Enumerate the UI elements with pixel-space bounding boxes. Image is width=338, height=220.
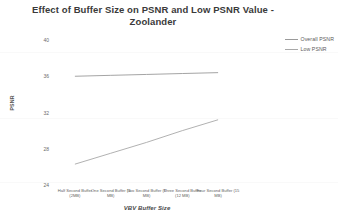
y-axis-tick-label: 32 (27, 110, 49, 116)
chart-legend: Overall PSNR Low PSNR (285, 36, 335, 52)
y-axis-title: PSNR (9, 83, 15, 123)
y-axis-tick-label: 40 (27, 37, 49, 43)
legend-item-low-psnr: Low PSNR (285, 46, 335, 52)
legend-swatch-icon (285, 39, 298, 40)
legend-swatch-icon (285, 49, 298, 50)
chart-title-line-1: Effect of Buffer Size on PSNR and Low PS… (28, 4, 278, 16)
legend-label: Low PSNR (301, 46, 327, 52)
chart-title-line-2: Zoolander (28, 16, 278, 28)
chart-title: Effect of Buffer Size on PSNR and Low PS… (28, 4, 278, 28)
y-axis-tick-label: 28 (27, 146, 49, 152)
line-series-low-psnr (75, 120, 218, 164)
legend-item-overall-psnr: Overall PSNR (285, 36, 335, 42)
y-axis-tick-label: 36 (27, 73, 49, 79)
chart-container: Effect of Buffer Size on PSNR and Low PS… (0, 0, 338, 220)
legend-label: Overall PSNR (301, 36, 335, 42)
line-series-overall-psnr (75, 73, 218, 77)
x-axis-title: VBV Buffer Size (57, 205, 237, 211)
plot-area (57, 40, 236, 185)
plot-svg (57, 40, 236, 185)
x-axis-tick-label: Four Second Buffer (15MB) (189, 188, 247, 199)
